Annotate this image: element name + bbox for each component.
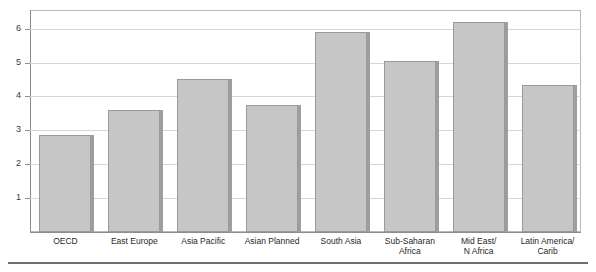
x-axis-label: Mid East/ N Africa [444, 236, 513, 256]
x-axis-label: East Europe [100, 236, 169, 246]
y-tick-1 [25, 198, 30, 199]
y-axis-label-1: 1 [0, 192, 21, 202]
y-axis-label-6: 6 [0, 23, 21, 33]
bar[interactable] [39, 135, 91, 232]
y-tick-4 [25, 96, 30, 97]
y-axis-label-5: 5 [0, 57, 21, 67]
y-tick-5 [25, 63, 30, 64]
bar[interactable] [384, 61, 436, 232]
y-tick-6 [25, 29, 30, 30]
bar[interactable] [522, 85, 574, 232]
x-axis-label: Sub-Saharan Africa [375, 236, 444, 256]
y-tick-3 [25, 130, 30, 131]
x-axis-label: South Asia [307, 236, 376, 246]
x-axis-baseline [30, 232, 581, 233]
bar[interactable] [177, 79, 229, 232]
bar[interactable] [453, 22, 505, 232]
y-axis-label-4: 4 [0, 90, 21, 100]
bar[interactable] [315, 32, 367, 232]
bar[interactable] [108, 110, 160, 232]
y-tick-2 [25, 164, 30, 165]
bar-slot [384, 10, 436, 232]
x-axis-label: Latin America/ Carib [513, 236, 582, 256]
x-axis-label: OECD [31, 236, 100, 246]
bar-chart-figure: per capita growth 123456 OECDEast Europe… [0, 0, 596, 272]
bar-slot [177, 10, 229, 232]
bar-slot [39, 10, 91, 232]
bottom-horizontal-rule [8, 262, 588, 264]
bars-group [31, 10, 581, 232]
x-axis-label: Asian Planned [238, 236, 307, 246]
x-axis-label: Asia Pacific [169, 236, 238, 246]
bar-slot [246, 10, 298, 232]
bar-slot [453, 10, 505, 232]
bar[interactable] [246, 105, 298, 232]
y-axis-label-3: 3 [0, 124, 21, 134]
bar-slot [522, 10, 574, 232]
y-axis-label-2: 2 [0, 158, 21, 168]
bar-slot [108, 10, 160, 232]
bar-slot [315, 10, 367, 232]
